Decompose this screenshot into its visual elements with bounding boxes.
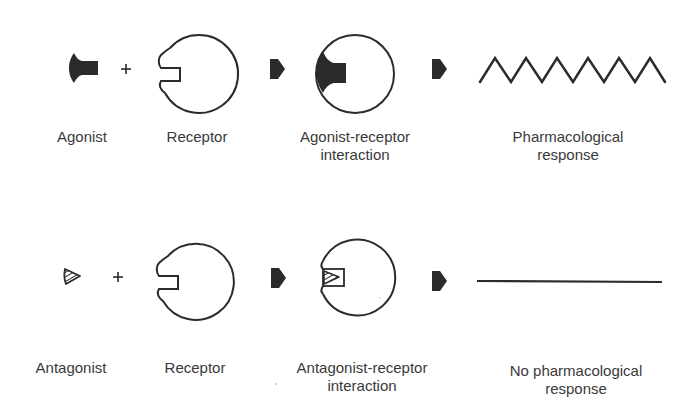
agonist-antagonist-diagram: [0, 0, 692, 417]
receptor-label: Receptor: [167, 128, 228, 146]
speck-artifact: [275, 383, 277, 385]
arrow-right-icon: [270, 59, 285, 79]
antagonist-receptor-interaction-label: Antagonist-receptor interaction: [297, 359, 428, 395]
plus-icon: [113, 272, 123, 282]
agonist-molecule-icon: [69, 53, 98, 83]
label-line: interaction: [300, 146, 410, 164]
zigzag-response-icon: [480, 58, 665, 82]
label-line: Antagonist-receptor: [297, 359, 428, 377]
pharmacological-response-label: Pharmacological response: [513, 128, 624, 164]
agonist-label: Agonist: [57, 128, 107, 146]
flat-line-icon: [477, 281, 662, 282]
arrow-right-icon: [271, 268, 286, 288]
agonist-receptor-interaction-label: Agonist-receptor interaction: [300, 128, 410, 164]
no-pharmacological-response-label: No pharmacological response: [510, 362, 643, 398]
agonist-receptor-complex-icon: [316, 35, 394, 113]
arrow-right-icon: [432, 271, 447, 291]
receptor-label: Receptor: [165, 359, 226, 377]
antagonist-receptor-complex-icon: [322, 240, 396, 316]
antagonist-label: Antagonist: [36, 359, 107, 377]
label-line: Agonist-receptor: [300, 128, 410, 146]
label-line: Pharmacological: [513, 128, 624, 146]
speck-artifact: [379, 297, 381, 299]
receptor-icon: [157, 244, 234, 320]
antagonist-molecule-icon: [64, 269, 80, 284]
label-line: response: [510, 380, 643, 398]
label-line: response: [513, 146, 624, 164]
label-line: No pharmacological: [510, 362, 643, 380]
arrow-right-icon: [432, 59, 447, 79]
label-line: interaction: [297, 377, 428, 395]
plus-icon: [121, 64, 131, 74]
receptor-icon: [159, 35, 238, 113]
